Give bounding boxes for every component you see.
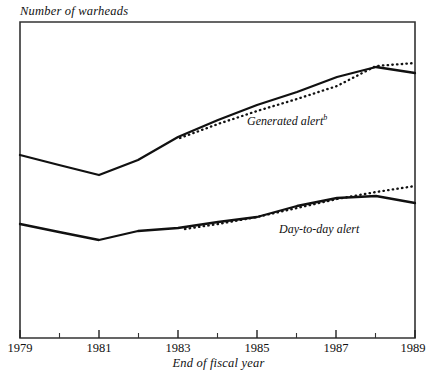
plot-frame bbox=[20, 22, 415, 338]
y-axis-title: Number of warheads bbox=[20, 4, 128, 19]
x-tick-label-1979: 1979 bbox=[8, 341, 33, 356]
series-label-generated-alert-footnote: b bbox=[323, 113, 327, 122]
series-label-day-to-day-alert: Day-to-day alert bbox=[279, 222, 359, 237]
x-tick-label-1981: 1981 bbox=[87, 341, 112, 356]
frame-rect bbox=[20, 22, 415, 338]
series-label-generated-alert-text: Generated alert bbox=[247, 114, 323, 128]
x-tick-label-1987: 1987 bbox=[324, 341, 349, 356]
series-label-generated-alert: Generated alertb bbox=[247, 113, 327, 129]
chart-figure: Number of warheads End of fiscal year 19… bbox=[0, 0, 437, 381]
x-tick-label-1989: 1989 bbox=[401, 341, 426, 356]
x-tick-label-1985: 1985 bbox=[245, 341, 270, 356]
x-axis-title: End of fiscal year bbox=[0, 356, 437, 371]
x-tick-label-1983: 1983 bbox=[166, 341, 191, 356]
chart-plot-area bbox=[0, 0, 437, 381]
